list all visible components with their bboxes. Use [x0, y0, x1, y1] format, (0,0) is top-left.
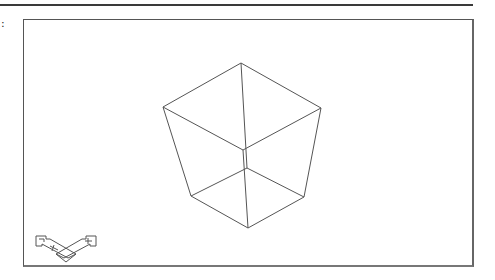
drawing-viewport[interactable]: [23, 19, 474, 267]
top-divider: [0, 4, 473, 6]
side-marker: :: [1, 18, 5, 29]
